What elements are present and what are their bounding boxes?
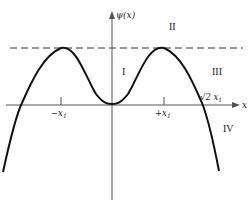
pos-x1-label: +x1 bbox=[155, 108, 171, 119]
region-II-label: II bbox=[169, 21, 176, 32]
neg-x1-label: −x1 bbox=[51, 108, 67, 119]
x-axis-arrow-icon bbox=[232, 102, 240, 108]
psi-curve bbox=[3, 48, 219, 172]
region-III-label: III bbox=[212, 66, 222, 77]
potential-diagram: ψ(x) x II I III IV −x1 +x1 √2 x1 bbox=[0, 0, 251, 209]
x-axis-label: x bbox=[242, 100, 247, 110]
y-axis-arrow-icon bbox=[109, 11, 115, 19]
region-I-label: I bbox=[122, 66, 125, 77]
root-sqrt2-x1-label: √2 x1 bbox=[200, 92, 222, 103]
region-IV-label: IV bbox=[223, 123, 234, 134]
y-axis-label: ψ(x) bbox=[116, 10, 136, 20]
